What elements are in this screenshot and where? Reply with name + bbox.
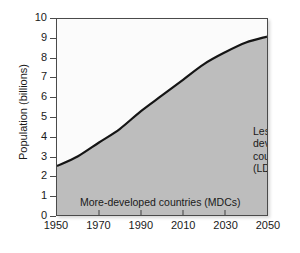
ldc-label-line-1: Less- xyxy=(253,125,268,137)
y-tick-label: 1 xyxy=(28,189,47,201)
plot-area: Less- developed countries (LDCs) xyxy=(56,18,268,216)
y-tick-label: 10 xyxy=(28,11,47,23)
x-tick-label: 1990 xyxy=(121,219,161,231)
y-tick-label: 2 xyxy=(28,169,47,181)
x-tick-label: 2030 xyxy=(206,219,246,231)
y-tick-mark xyxy=(50,117,56,118)
y-tick-mark xyxy=(50,38,56,39)
y-tick-mark xyxy=(50,137,56,138)
y-tick-label: 6 xyxy=(28,90,47,102)
population-projection-chart: Population (billions) Less- developed co… xyxy=(0,0,300,253)
y-tick-mark xyxy=(50,176,56,177)
y-tick-mark xyxy=(50,18,56,19)
ldc-label-line-2: developed xyxy=(253,137,268,149)
y-tick-label: 5 xyxy=(28,110,47,122)
population-area-fill xyxy=(57,37,267,215)
y-tick-label: 7 xyxy=(28,70,47,82)
y-tick-mark xyxy=(50,157,56,158)
y-tick-label: 4 xyxy=(28,130,47,142)
x-tick-label: 1970 xyxy=(78,219,118,231)
x-tick-label: 2010 xyxy=(163,219,203,231)
ldc-region-label: Less- developed countries (LDCs) xyxy=(253,125,268,175)
y-tick-mark xyxy=(50,58,56,59)
y-tick-mark xyxy=(50,97,56,98)
mdc-region-label: More-developed countries (MDCs) xyxy=(80,196,240,208)
x-tick-label: 2050 xyxy=(248,219,288,231)
y-tick-mark xyxy=(50,196,56,197)
ldc-label-line-4: (LDCs) xyxy=(253,162,268,174)
ldc-label-line-3: countries xyxy=(253,150,268,162)
y-tick-label: 3 xyxy=(28,150,47,162)
x-tick-label: 1950 xyxy=(36,219,76,231)
plot-canvas xyxy=(57,19,267,215)
y-tick-mark xyxy=(50,216,56,217)
y-tick-label: 9 xyxy=(28,31,47,43)
y-tick-label: 8 xyxy=(28,51,47,63)
y-tick-mark xyxy=(50,77,56,78)
